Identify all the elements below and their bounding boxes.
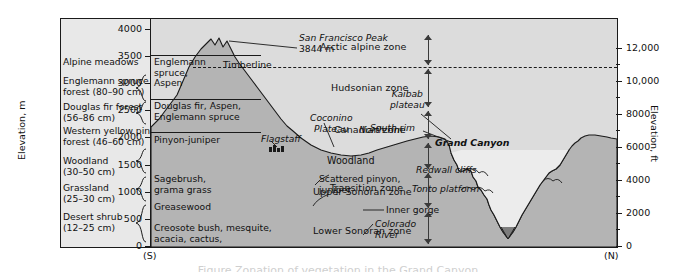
plant-band-sagebrush: Sagebrush, grama grass <box>154 174 212 195</box>
north-marker: (N) <box>604 250 619 261</box>
feature-tonto-platform: Tonto platform <box>412 184 479 195</box>
left-tick-3500 <box>145 56 150 57</box>
left-tick-label-500: 500 <box>100 213 142 224</box>
right-tick-10000 <box>616 81 622 82</box>
feature-flagstaff: Flagstaff <box>261 134 301 145</box>
feature-peak-elevation: 3844 m <box>299 44 334 55</box>
cross-section-plot: Arctic alpine zone Hudsonian zone Canadi… <box>150 18 618 248</box>
feature-scattered-pinyon: Scattered pinyon, juniper <box>319 174 400 195</box>
right-tick-12000 <box>616 48 622 49</box>
left-tick-label-4000: 4000 <box>100 23 142 34</box>
feature-colorado-river: Colorado River <box>375 219 416 240</box>
left-tick-label-1500: 1500 <box>100 159 142 170</box>
right-tick-label-10000: 10,000 <box>626 75 659 86</box>
feature-north-rim: North rim <box>359 125 403 136</box>
left-tick-0 <box>145 246 150 247</box>
right-tick-label-0: 0 <box>626 240 632 251</box>
left-tick-3000 <box>145 83 150 84</box>
brace-desert-shrub <box>134 204 147 244</box>
right-tick-8000 <box>616 114 622 115</box>
plant-band-pinyon-juniper: Pinyon-juniper <box>154 135 220 146</box>
feature-inner-gorge: Inner gorge <box>386 205 439 216</box>
left-tick-label-3000: 3000 <box>100 77 142 88</box>
feature-coconino-plateau: Coconino Plateau <box>310 113 353 134</box>
left-tick-label-1000: 1000 <box>100 186 142 197</box>
feature-timberline: Timberline <box>223 60 272 71</box>
band-sep-3 <box>151 132 261 133</box>
right-tick-label-2000: 2000 <box>626 207 650 218</box>
left-tick-label-3500: 3500 <box>100 50 142 61</box>
left-tick-500 <box>145 219 150 220</box>
right-minor-tick-1000 <box>616 229 620 230</box>
south-marker: (S) <box>143 250 156 261</box>
feature-redwall-cliffs: Redwall cliffs <box>416 165 477 176</box>
left-tick-label-0: 0 <box>100 240 142 251</box>
right-tick-4000 <box>616 180 622 181</box>
right-minor-tick-9000 <box>616 97 620 98</box>
left-tick-1000 <box>145 192 150 193</box>
zone-arrow-lower-sonoran <box>424 212 433 244</box>
zone-arrow-arctic <box>424 35 433 65</box>
right-tick-label-4000: 4000 <box>626 174 650 185</box>
right-axis-title: Elevation, ft <box>649 105 660 162</box>
feature-woodland: Woodland <box>327 156 374 167</box>
right-tick-6000 <box>616 147 622 148</box>
left-tick-label-2500: 2500 <box>100 104 142 115</box>
plant-band-englemann: Englemann spruce, Aspen <box>154 57 206 89</box>
plant-band-douglas-fir: Douglas fir, Aspen, Englemann spruce <box>154 101 241 122</box>
left-tick-4000 <box>145 29 150 30</box>
right-tick-label-12000: 12,000 <box>626 42 659 53</box>
right-minor-tick-5000 <box>616 163 620 164</box>
right-tick-label-6000: 6000 <box>626 141 650 152</box>
band-sep-1 <box>151 55 261 56</box>
right-minor-tick-7000 <box>616 130 620 131</box>
left-axis-title: Elevation, m <box>16 101 27 160</box>
left-tick-label-2000: 2000 <box>100 131 142 142</box>
left-tick-2500 <box>145 110 150 111</box>
left-tick-1500 <box>145 165 150 166</box>
plant-band-greasewood: Greasewood <box>154 202 211 213</box>
figure-root: VEGETATION TYPES LIFE ZONES (rainfall) A… <box>0 0 676 272</box>
right-minor-tick-11000 <box>616 64 620 65</box>
right-tick-0 <box>616 246 622 247</box>
feature-grand-canyon: Grand Canyon <box>435 137 509 148</box>
band-sep-2 <box>151 99 261 100</box>
zone-arrow-hudsonian <box>424 69 433 107</box>
feature-kaibab-plateau: Kaibab plateau <box>390 89 425 110</box>
right-tick-label-8000: 8000 <box>626 108 650 119</box>
feature-san-francisco-peak: San Francisco Peak <box>299 33 388 44</box>
right-tick-2000 <box>616 213 622 214</box>
figure-caption: Figure Zonation of vegetation in the Gra… <box>0 264 676 272</box>
plant-band-creosote: Creosote bush, mesquite, acacia, cactus,… <box>154 223 272 248</box>
left-tick-2000 <box>145 137 150 138</box>
right-minor-tick-3000 <box>616 196 620 197</box>
zone-arrow-canadian <box>424 111 433 139</box>
